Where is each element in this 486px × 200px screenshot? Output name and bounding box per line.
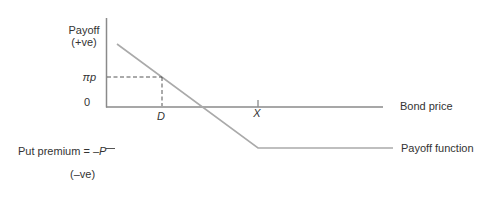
payoff-function-label: Payoff function xyxy=(401,142,474,154)
pi-symbol: π xyxy=(83,71,90,83)
put-premium-annotation: Put premium = –P xyxy=(18,145,106,157)
x-axis-title: Bond price xyxy=(400,100,453,112)
negative-region-label: (–ve) xyxy=(70,168,95,180)
put-premium-text: Put premium = – xyxy=(18,145,99,157)
put-option-payoff-diagram: Payoff (+ve) πp 0 D X Bond price Payoff … xyxy=(0,0,486,200)
origin-label: 0 xyxy=(78,96,90,108)
x-axis-tick-x-label: X xyxy=(247,107,267,119)
premium-level-label: πp xyxy=(70,71,96,83)
x-axis-tick-d-label: D xyxy=(151,110,171,122)
payoff-function-line xyxy=(117,44,393,148)
y-axis-positive-label: (+ve) xyxy=(64,36,104,48)
put-premium-p-symbol: P xyxy=(99,145,106,157)
y-axis-title: Payoff xyxy=(64,24,104,36)
p-symbol: p xyxy=(90,71,96,83)
